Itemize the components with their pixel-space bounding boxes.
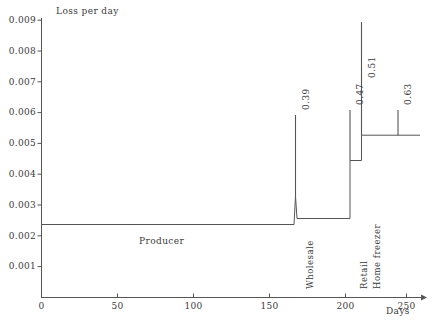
y-tick-label: 0.009: [0, 15, 36, 25]
x-axis-arrow: [421, 295, 427, 301]
page-title: Loss per day: [56, 6, 119, 16]
error-bar-value-retail: 0.47: [355, 83, 365, 105]
y-tick-label: 0.005: [0, 138, 36, 148]
y-tick-label: 0.002: [0, 231, 36, 241]
y-tick-label: 0.003: [0, 200, 36, 210]
x-tick-label: 0: [22, 301, 62, 311]
x-tick-label: 100: [174, 301, 214, 311]
chart-plot-area: [0, 0, 435, 325]
stage-label-wholesale: Wholesale: [305, 240, 315, 289]
y-tick-label: 0.007: [0, 77, 36, 87]
error-bar-value-wholesale: 0.39: [301, 88, 311, 110]
error-bar-value-home-freezer-upper: 0.51: [367, 56, 377, 78]
y-axis-ticks: [38, 20, 42, 266]
stage-label-retail: Retail: [359, 261, 369, 289]
x-tick-label: 200: [326, 301, 366, 311]
y-tick-label: 0.008: [0, 46, 36, 56]
y-tick-label: 0.004: [0, 169, 36, 179]
y-tick-label: 0.001: [0, 261, 36, 271]
stage-label-producer: Producer: [139, 236, 184, 246]
chart-canvas: Loss per day Days 0.009 0.008 0.007 0.00…: [0, 0, 435, 325]
x-axis-ticks: [42, 294, 407, 298]
stage-label-home-freezer: Home freezer: [372, 224, 382, 289]
error-bar-value-home-freezer: 0.63: [403, 83, 413, 105]
x-tick-label: 250: [387, 301, 427, 311]
x-tick-label: 50: [98, 301, 138, 311]
y-tick-label: 0.006: [0, 107, 36, 117]
x-tick-label: 150: [250, 301, 290, 311]
loss-step-line: [42, 135, 421, 224]
